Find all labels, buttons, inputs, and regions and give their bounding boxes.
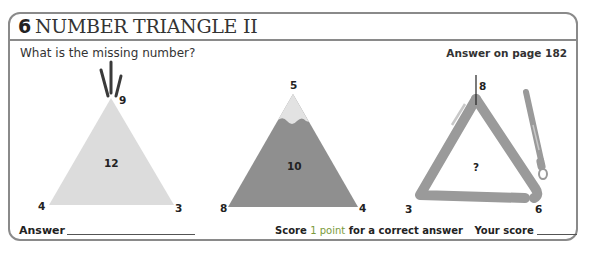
score-prefix: Score <box>275 225 307 236</box>
mountain-top-number: 5 <box>290 79 297 91</box>
your-score-input-line[interactable] <box>537 234 577 235</box>
instrument-center-number: ? <box>473 161 479 173</box>
answer-input-line[interactable] <box>67 234 195 235</box>
puzzle-illustrations: 9 4 3 12 5 8 4 10 8 3 6 ? <box>0 0 591 255</box>
answer-field[interactable]: Answer <box>19 224 195 237</box>
triangle-instrument-icon: 8 3 6 ? <box>405 75 547 215</box>
score-points: 1 point <box>310 225 345 236</box>
tipi-left-number: 4 <box>38 200 45 212</box>
your-score-label: Your score <box>475 225 534 236</box>
answer-label: Answer <box>19 224 65 237</box>
mountain-icon: 5 8 4 10 <box>220 79 366 214</box>
tipi-top-number: 9 <box>119 94 126 106</box>
instrument-left-number: 3 <box>405 203 412 215</box>
mountain-left-number: 8 <box>220 202 227 214</box>
instrument-top-number: 8 <box>479 80 486 92</box>
mountain-right-number: 4 <box>359 202 366 214</box>
score-suffix: for a correct answer <box>349 225 463 236</box>
mountain-center-number: 10 <box>287 160 302 172</box>
tipi-center-number: 12 <box>104 157 119 169</box>
tipi-right-number: 3 <box>175 202 182 214</box>
instrument-right-number: 6 <box>535 203 542 215</box>
tipi-icon: 9 4 3 12 <box>38 62 182 214</box>
score-row: Score 1 point for a correct answer Your … <box>275 225 577 236</box>
